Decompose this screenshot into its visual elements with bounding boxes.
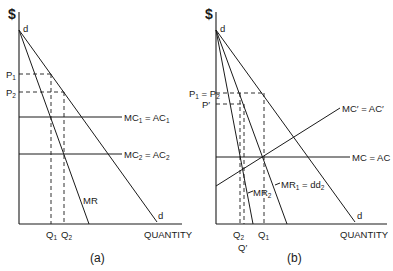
p1-label-a: P1	[6, 69, 16, 81]
x-axis-label-a: QUANTITY	[144, 229, 193, 240]
apex-label-a: d	[23, 23, 28, 34]
mr2-label-b: MR2	[253, 187, 272, 199]
x-axis-label-b: QUANTITY	[340, 229, 389, 240]
demand-curve-b	[216, 30, 355, 222]
demand-end-label-a: d	[158, 210, 163, 221]
q1-label-b: Q1	[258, 229, 269, 241]
q2-label-a: Q2	[61, 229, 72, 241]
demand-curve-a	[19, 30, 157, 222]
economics-diagram: $ d d MR MC1 = AC1 MC2 = AC2 P1 P2 Q1	[0, 0, 393, 271]
mc-ac-label-b: MC = AC	[352, 152, 390, 163]
mc2-ac2-label: MC2 = AC2	[124, 149, 170, 161]
qprime-label-b: Q′	[238, 242, 247, 253]
pprime-label-b: P′	[202, 99, 210, 110]
mr1-dd2-label-b: MR1 = dd2	[281, 179, 325, 191]
mc1-ac1-label: MC1 = AC1	[124, 112, 170, 124]
q2-label-b: Q2	[233, 229, 244, 241]
y-axis-label-a: $	[8, 6, 16, 22]
p2-label-a: P2	[6, 87, 16, 99]
mr-curve-a	[19, 30, 89, 224]
mr2-curve-b	[216, 30, 253, 224]
apex-label-b: d	[220, 23, 225, 34]
caption-a: (a)	[90, 251, 105, 265]
mr-label-a: MR	[83, 195, 98, 206]
demand-end-label-b: d	[357, 210, 362, 221]
panel-b: $ d d MC = AC MC′ = AC′ P1 = P2 P′ MR2 M…	[189, 6, 390, 265]
mr1-pointer	[275, 183, 280, 185]
mr1-curve-b	[216, 30, 287, 224]
y-axis-label-b: $	[205, 6, 213, 22]
mc-prime-ac-prime-line	[216, 108, 340, 186]
mc-prime-ac-prime-label: MC′ = AC′	[342, 103, 384, 114]
panel-a: $ d d MR MC1 = AC1 MC2 = AC2 P1 P2 Q1	[6, 6, 193, 265]
caption-b: (b)	[287, 251, 302, 265]
q1-label-a: Q1	[46, 229, 57, 241]
